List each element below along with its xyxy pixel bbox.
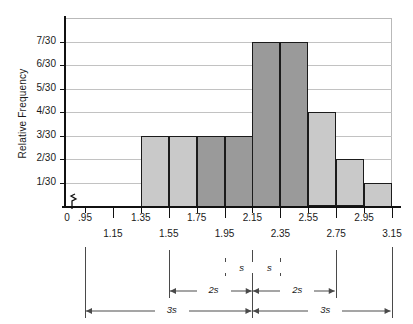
gridline (65, 42, 392, 43)
gridline (65, 112, 392, 113)
annotation-label: 3s (155, 304, 189, 315)
gridline (65, 89, 392, 90)
annotation-reference-tick (392, 247, 393, 318)
y-axis-line (64, 16, 66, 208)
axis-break-icon (68, 194, 84, 210)
x-tick-label: 2.35 (260, 228, 300, 239)
x-tick-label: 2.15 (232, 212, 272, 223)
x-tick-label: 1.15 (93, 228, 133, 239)
annotation-label: 2s (280, 284, 314, 295)
x-tick-mark (113, 207, 114, 218)
x-tick-mark (392, 207, 393, 218)
x-tick-mark (225, 207, 226, 218)
gridline (65, 65, 392, 66)
y-tick-label: 1/30 (22, 176, 56, 187)
x-tick-label: 1.95 (205, 228, 245, 239)
y-tick-label: 4/30 (22, 105, 56, 116)
y-tick-label: 7/30 (22, 35, 56, 46)
histogram-bar (141, 136, 169, 207)
histogram-bar (280, 42, 308, 207)
histogram-bar (197, 136, 225, 207)
x-tick-label: 1.55 (149, 228, 189, 239)
y-tick-label: 5/30 (22, 82, 56, 93)
x-tick-label: 2.75 (316, 228, 356, 239)
y-tick-label: 2/30 (22, 152, 56, 163)
x-tick-label: .95 (65, 212, 105, 223)
histogram-bar (308, 112, 336, 206)
y-tick-label: 3/30 (22, 129, 56, 140)
histogram-bar (225, 136, 253, 207)
histogram-bar (252, 42, 280, 207)
annotation-label: s (252, 262, 286, 273)
x-tick-label: 2.95 (344, 212, 384, 223)
x-tick-mark (169, 207, 170, 218)
x-tick-mark (336, 207, 337, 218)
annotation-label: 3s (308, 304, 342, 315)
y-tick-label: 6/30 (22, 58, 56, 69)
x-tick-label: 1.75 (177, 212, 217, 223)
histogram-figure: Relative Frequency 1/302/303/304/305/306… (0, 0, 413, 324)
x-tick-label: 3.15 (372, 228, 412, 239)
x-tick-label: 2.55 (288, 212, 328, 223)
annotation-label: 2s (197, 284, 231, 295)
x-tick-label: 1.35 (121, 212, 161, 223)
histogram-bar (336, 159, 364, 206)
x-tick-mark (280, 207, 281, 218)
histogram-bar (169, 136, 197, 207)
histogram-bar (364, 183, 392, 207)
